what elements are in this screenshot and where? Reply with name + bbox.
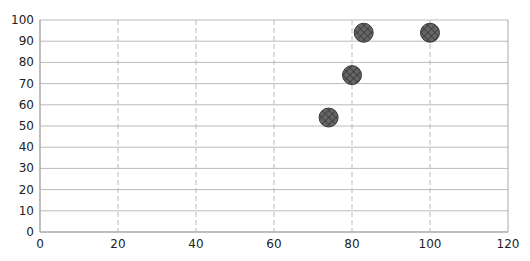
y-tick-label: 100 xyxy=(11,13,34,27)
data-points xyxy=(319,23,439,127)
x-tick-label: 120 xyxy=(497,237,520,251)
x-tick-label: 100 xyxy=(419,237,442,251)
scatter-point xyxy=(421,23,440,42)
x-tick-label: 0 xyxy=(36,237,44,251)
grid-lines xyxy=(40,20,508,232)
x-tick-label: 60 xyxy=(266,237,281,251)
y-tick-label: 50 xyxy=(19,119,34,133)
x-tick-label: 80 xyxy=(344,237,359,251)
y-tick-label: 20 xyxy=(19,183,34,197)
y-tick-label: 70 xyxy=(19,77,34,91)
x-tick-label: 20 xyxy=(110,237,125,251)
scatter-point xyxy=(354,23,373,42)
y-tick-label: 80 xyxy=(19,55,34,69)
y-tick-label: 60 xyxy=(19,98,34,112)
scatter-point xyxy=(343,66,362,85)
y-tick-label: 10 xyxy=(19,204,34,218)
y-axis-ticks: 0102030405060708090100 xyxy=(11,13,34,239)
scatter-point xyxy=(319,108,338,127)
scatter-chart: 0102030405060708090100 020406080100120 xyxy=(0,0,530,261)
y-tick-label: 0 xyxy=(26,225,34,239)
x-tick-label: 40 xyxy=(188,237,203,251)
y-tick-label: 40 xyxy=(19,140,34,154)
x-axis-ticks: 020406080100120 xyxy=(36,237,519,251)
y-tick-label: 30 xyxy=(19,161,34,175)
y-tick-label: 90 xyxy=(19,34,34,48)
